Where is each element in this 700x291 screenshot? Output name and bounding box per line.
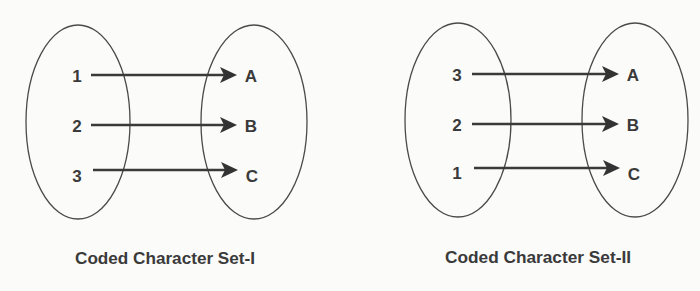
domain-label: 3 — [72, 167, 81, 186]
domain-label: 2 — [72, 117, 81, 136]
panel-caption: Coded Character Set-II — [445, 248, 631, 267]
panel-caption: Coded Character Set-I — [75, 249, 255, 268]
codomain-label: B — [627, 116, 639, 135]
codomain-label: A — [627, 66, 639, 85]
panel-coded-character-set-2: 3 A 2 B 1 C Coded Character Set-II — [405, 23, 688, 267]
domain-label: 3 — [452, 66, 461, 85]
panel-coded-character-set-1: 1 A 2 B 3 C Coded Character Set-I — [26, 25, 307, 268]
domain-label: 1 — [72, 67, 81, 86]
domain-label: 1 — [452, 164, 461, 183]
character-set-mapping-diagram: 1 A 2 B 3 C Coded Character Set-I 3 A 2 … — [0, 0, 700, 291]
domain-label: 2 — [452, 116, 461, 135]
codomain-label: B — [245, 117, 257, 136]
codomain-label: A — [245, 67, 257, 86]
codomain-label: C — [628, 165, 640, 184]
codomain-label: C — [246, 167, 258, 186]
